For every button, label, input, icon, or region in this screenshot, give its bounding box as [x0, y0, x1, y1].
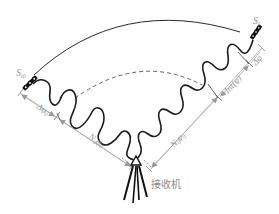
connector-right-mid1 [208, 84, 218, 98]
signal-wave-right [136, 40, 253, 160]
satellite-orbit-arc [34, 20, 240, 75]
label-satellite-t: St [253, 15, 260, 27]
label-n-phi0-left: N0φ0 [86, 131, 107, 150]
tick-right-end [258, 44, 265, 51]
arrow-n-phi0-right [152, 98, 217, 167]
satellite-t-icon [250, 24, 263, 40]
carrier-phase-diagram: St0 St Δφ0 N0φ0 N0φ0 Int(φ) Δφ 接收机 [0, 0, 279, 214]
label-int-phi: Int(φ) [221, 73, 243, 96]
label-receiver: 接收机 [151, 178, 181, 190]
dashed-reference-arc [75, 71, 202, 98]
connector-receiver-right [144, 160, 152, 168]
receiver-tripod-icon [124, 156, 147, 203]
diagram-svg: St0 St Δφ0 N0φ0 N0φ0 Int(φ) Δφ 接收机 [0, 0, 279, 214]
label-satellite-t0: St0 [16, 67, 26, 79]
